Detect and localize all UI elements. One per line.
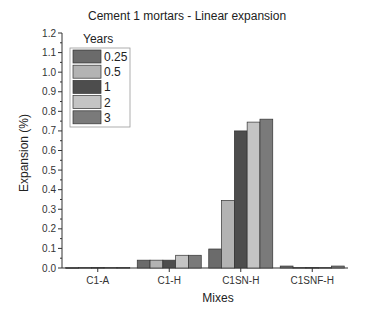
y-tick-label: 1.2 — [42, 28, 56, 39]
y-tick-label: 0.1 — [42, 243, 56, 254]
y-tick-label: 0.6 — [42, 145, 56, 156]
bar — [209, 249, 222, 268]
legend-label: 1 — [104, 80, 111, 94]
y-tick-label: 0.2 — [42, 223, 56, 234]
legend: Years0.250.5123 — [70, 32, 130, 127]
bars — [66, 119, 345, 268]
x-tick-label: C1SNF-H — [291, 275, 334, 286]
bar — [280, 266, 293, 268]
y-tick-label: 0.5 — [42, 165, 56, 176]
legend-title: Years — [83, 32, 113, 46]
y-tick-label: 1.1 — [42, 47, 56, 58]
x-tick-label: C1-A — [86, 275, 109, 286]
bar — [188, 255, 201, 268]
x-tick-label: C1-H — [158, 275, 181, 286]
y-tick-label: 0.0 — [42, 263, 56, 274]
y-tick-label: 0.7 — [42, 125, 56, 136]
bar — [163, 260, 176, 268]
bar — [91, 267, 104, 268]
bar — [293, 267, 306, 268]
bar — [222, 200, 235, 268]
bar-chart: 0.00.10.20.30.40.50.60.70.80.91.01.11.2 … — [0, 0, 366, 314]
y-tick-label: 1.0 — [42, 67, 56, 78]
bar — [104, 267, 117, 268]
bar — [331, 266, 344, 268]
bar — [137, 260, 150, 268]
bar — [117, 267, 130, 268]
bar — [150, 260, 163, 268]
bar — [79, 267, 92, 268]
legend-swatch — [73, 96, 101, 109]
x-axis-label: Mixes — [202, 291, 233, 305]
x-tick-label: C1SN-H — [222, 275, 259, 286]
bar — [66, 268, 79, 269]
y-tick-label: 0.3 — [42, 204, 56, 215]
x-axis: C1-AC1-HC1SN-HC1SNF-H — [62, 268, 348, 286]
legend-label: 2 — [104, 96, 111, 110]
y-tick-label: 0.9 — [42, 86, 56, 97]
bar — [319, 267, 332, 268]
y-tick-label: 0.8 — [42, 106, 56, 117]
bar — [234, 131, 247, 268]
bar — [260, 119, 273, 268]
bar — [176, 255, 189, 268]
legend-label: 3 — [104, 111, 111, 125]
y-axis-label: Expansion (%) — [17, 114, 31, 192]
legend-swatch — [73, 65, 101, 78]
legend-swatch — [73, 80, 101, 93]
legend-label: 0.25 — [104, 50, 128, 64]
y-axis: 0.00.10.20.30.40.50.60.70.80.91.01.11.2 — [42, 28, 62, 274]
legend-swatch — [73, 111, 101, 124]
legend-label: 0.5 — [104, 65, 121, 79]
bar — [306, 267, 319, 268]
y-tick-label: 0.4 — [42, 184, 56, 195]
bar — [247, 122, 260, 268]
legend-swatch — [73, 50, 101, 63]
